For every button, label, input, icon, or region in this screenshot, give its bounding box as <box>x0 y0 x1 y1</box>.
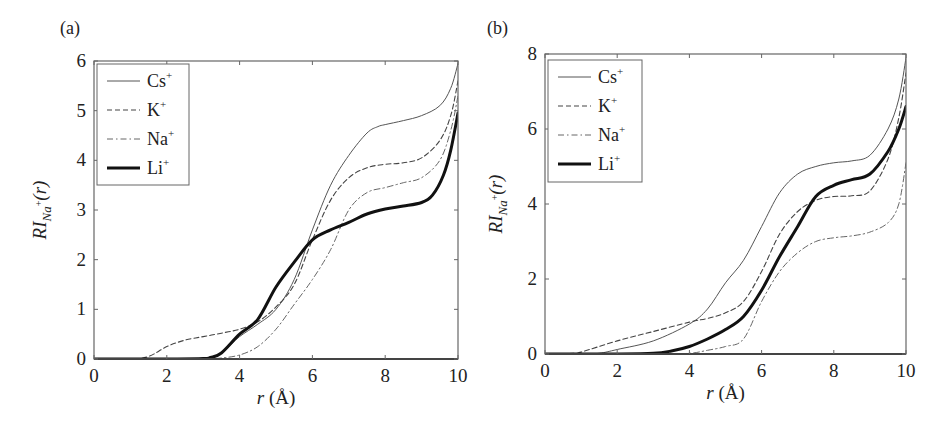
legend-label-text: Li <box>147 158 163 178</box>
y-tick-label: 3 <box>77 199 87 220</box>
y-tick-label: 4 <box>528 193 538 214</box>
panel-a: (a)02468100123456r (Å)RINa+(r)Cs+K+Na+Li… <box>29 18 468 409</box>
legend-label-sup: + <box>614 152 620 164</box>
y-tick-label: 5 <box>77 100 87 121</box>
x-tick-label: 8 <box>380 365 390 386</box>
x-tick-label: 2 <box>162 365 172 386</box>
x-tick-label: 4 <box>235 365 245 386</box>
y-axis-label-arg: (r) <box>485 175 507 195</box>
y-tick-label: 6 <box>528 118 538 139</box>
figure: (a)02468100123456r (Å)RINa+(r)Cs+K+Na+Li… <box>0 0 950 423</box>
x-tick-label: 6 <box>757 360 767 381</box>
legend-label-sup: + <box>166 69 172 81</box>
legend-label-text: Na <box>598 125 619 145</box>
y-tick-label: 1 <box>77 298 87 319</box>
y-tick-label: 4 <box>77 149 87 170</box>
legend-label-text: K <box>147 100 160 120</box>
legend-label-sup: + <box>611 94 617 106</box>
x-tick-label: 2 <box>612 360 622 381</box>
legend-label-sup: + <box>160 98 166 110</box>
y-axis-label-main: RI <box>29 220 50 241</box>
y-axis-label-sub: Na <box>495 200 510 217</box>
x-axis-label-var: r <box>706 382 718 403</box>
y-tick-label: 0 <box>528 343 538 364</box>
legend-label-sup: + <box>168 127 174 139</box>
y-tick-label: 8 <box>528 43 538 64</box>
y-axis-label-sub: Na <box>39 206 54 223</box>
y-axis-label: RINa+(r) <box>485 175 510 235</box>
x-tick-label: 6 <box>308 365 318 386</box>
panel-b: (b)024681002468r (Å)RINa+(r)Cs+K+Na+Li+ <box>485 18 916 404</box>
x-tick-label: 8 <box>829 360 839 381</box>
x-axis-label-unit: (Å) <box>718 382 744 404</box>
legend-label-sup: + <box>163 156 169 168</box>
x-tick-label: 0 <box>89 365 99 386</box>
x-axis-label-unit: (Å) <box>269 387 295 409</box>
y-tick-label: 0 <box>77 348 87 369</box>
legend: Cs+K+Na+Li+ <box>548 60 642 182</box>
y-tick-label: 2 <box>528 268 538 289</box>
x-axis-label: r (Å) <box>257 387 296 409</box>
legend-label-text: K <box>598 96 611 116</box>
y-tick-label: 6 <box>77 50 87 71</box>
legend: Cs+K+Na+Li+ <box>97 64 189 185</box>
legend-label-text: Li <box>598 154 614 174</box>
legend-label-text: Cs <box>147 71 166 91</box>
x-axis-label: r (Å) <box>706 382 745 404</box>
series-line-na <box>545 163 906 354</box>
legend-label-text: Cs <box>598 67 617 87</box>
panel-label: (b) <box>487 18 508 39</box>
x-axis-label-var: r <box>257 387 269 408</box>
x-tick-label: 0 <box>540 360 550 381</box>
x-tick-label: 10 <box>897 360 916 381</box>
legend-label-sup: + <box>619 123 625 135</box>
panel-label: (a) <box>60 18 80 39</box>
x-tick-label: 4 <box>685 360 695 381</box>
y-tick-label: 2 <box>77 249 87 270</box>
legend-label-text: Na <box>147 129 168 149</box>
y-axis-label: RINa+(r) <box>29 181 54 241</box>
y-axis-label-main: RI <box>485 214 506 235</box>
y-axis-label-arg: (r) <box>29 181 51 201</box>
legend-label-sup: + <box>617 65 623 77</box>
x-tick-label: 10 <box>449 365 468 386</box>
